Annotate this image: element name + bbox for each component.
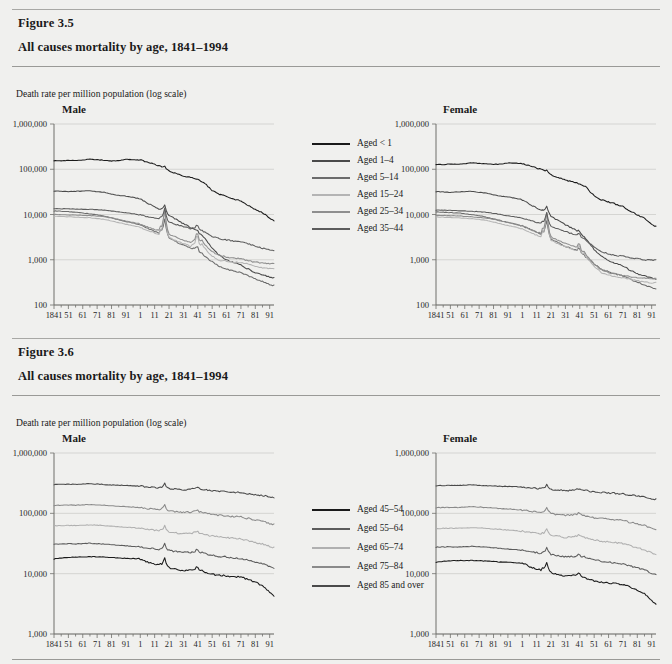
svg-text:41: 41 [194,311,202,320]
svg-text:71: 71 [93,311,101,320]
svg-text:41: 41 [576,640,584,649]
svg-text:71: 71 [619,640,627,649]
svg-text:11: 11 [533,640,541,649]
svg-text:51: 51 [590,311,598,320]
figure-3-6-female-chart: 1,000,000100,00010,0001,0001841516171819… [390,445,660,660]
svg-text:1841: 1841 [46,311,63,320]
svg-text:81: 81 [489,640,497,649]
legend-label: Aged 25–34 [357,206,403,216]
svg-text:71: 71 [475,311,483,320]
svg-text:1,000: 1,000 [410,255,429,265]
figure-3-6-male-label: Male [62,432,86,444]
svg-text:51: 51 [208,311,216,320]
legend-label: Aged 35–44 [357,223,403,233]
svg-text:71: 71 [475,640,483,649]
document-page: Figure 3.5 All causes mortality by age, … [0,0,672,664]
figure-3-6-top-rule [12,338,660,339]
legend-swatch [312,194,350,196]
svg-text:61: 61 [461,311,469,320]
svg-text:1: 1 [138,640,142,649]
svg-text:1,000: 1,000 [28,255,47,265]
figure-3-5-axis-caption: Death rate per million population (log s… [16,88,187,99]
svg-text:91: 91 [647,311,655,320]
figure-3-6-axis-caption: Death rate per million population (log s… [16,417,187,428]
figure-3-6-block: Figure 3.6 All causes mortality by age, … [0,332,672,664]
svg-text:11: 11 [533,311,541,320]
figure-3-5-male-chart: 1,000,000100,00010,0001,0001001841516171… [8,116,278,331]
figure-3-6-title-rule [12,395,660,396]
figure-3-5-male-label: Male [62,103,86,115]
figure-3-5-number: Figure 3.5 [18,16,74,31]
svg-text:10,000: 10,000 [405,569,429,579]
svg-text:1841: 1841 [428,311,445,320]
legend-label: Aged 55–64 [357,523,403,533]
svg-text:61: 61 [79,311,87,320]
svg-text:51: 51 [446,311,454,320]
svg-text:10,000: 10,000 [405,210,429,220]
svg-text:1,000: 1,000 [410,629,429,639]
legend-swatch [312,528,350,530]
svg-text:51: 51 [208,640,216,649]
svg-text:61: 61 [604,311,612,320]
svg-text:10,000: 10,000 [23,569,47,579]
svg-text:100,000: 100,000 [401,164,429,174]
figure-3-5-female-label: Female [443,103,477,115]
svg-text:51: 51 [446,640,454,649]
svg-text:1,000,000: 1,000,000 [395,119,429,129]
svg-text:51: 51 [64,640,72,649]
svg-text:61: 61 [79,640,87,649]
svg-text:71: 71 [237,640,245,649]
svg-text:10,000: 10,000 [23,210,47,220]
svg-text:100,000: 100,000 [19,164,47,174]
figure-3-6-female-label: Female [443,432,477,444]
legend-label: Aged 1–4 [357,155,394,165]
figure-3-6-bottom-rule [12,659,660,660]
svg-text:100,000: 100,000 [19,508,47,518]
svg-text:11: 11 [151,311,159,320]
legend-label: Aged 65–74 [357,542,403,552]
legend-swatch [312,211,350,213]
svg-text:41: 41 [576,311,584,320]
svg-text:31: 31 [179,640,187,649]
svg-text:21: 21 [547,311,555,320]
svg-text:31: 31 [179,311,187,320]
legend-label: Aged 5–14 [357,172,398,182]
svg-text:71: 71 [619,311,627,320]
figure-3-6-number: Figure 3.6 [18,345,74,360]
svg-text:61: 61 [222,311,230,320]
svg-text:41: 41 [194,640,202,649]
svg-text:31: 31 [561,311,569,320]
figure-3-5-top-rule [12,9,660,10]
legend-swatch [312,566,350,568]
svg-text:1,000,000: 1,000,000 [395,448,429,458]
legend-label: Aged 85 and over [357,580,424,590]
svg-text:91: 91 [265,640,273,649]
svg-text:1,000,000: 1,000,000 [13,448,47,458]
legend-swatch [312,547,350,549]
svg-text:100: 100 [34,300,47,310]
svg-text:21: 21 [165,311,173,320]
svg-text:81: 81 [107,640,115,649]
svg-text:31: 31 [561,640,569,649]
svg-text:1: 1 [138,311,142,320]
svg-text:21: 21 [547,640,555,649]
figure-3-5-female-chart: 1,000,000100,00010,0001,0001001841516171… [390,116,660,331]
legend-label: Aged 75–84 [357,561,403,571]
figure-3-6-title: All causes mortality by age, 1841–1994 [18,369,228,384]
figure-3-5-title-rule [12,66,660,67]
figure-3-5-block: Figure 3.5 All causes mortality by age, … [0,0,672,332]
svg-text:91: 91 [122,311,130,320]
svg-text:91: 91 [265,311,273,320]
svg-text:81: 81 [489,311,497,320]
svg-text:81: 81 [633,640,641,649]
svg-text:1,000,000: 1,000,000 [13,119,47,129]
legend-swatch [312,509,350,511]
svg-text:1841: 1841 [428,640,445,649]
svg-text:100,000: 100,000 [401,508,429,518]
svg-text:21: 21 [165,640,173,649]
legend-swatch [312,585,350,587]
legend-swatch [312,160,350,162]
svg-text:81: 81 [251,640,259,649]
svg-text:61: 61 [222,640,230,649]
svg-text:81: 81 [251,311,259,320]
